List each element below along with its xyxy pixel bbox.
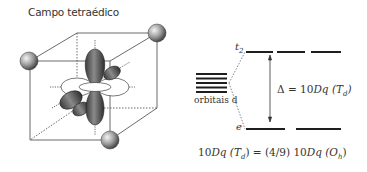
ligand-sphere [101,131,119,149]
ligand-sphere [20,52,38,70]
connector-lines [229,52,245,129]
t2-label: t2 [235,41,244,55]
ligand-sphere [148,24,166,42]
splitting-arrow [269,55,272,122]
orbitais-d-label: orbitais d [194,95,237,105]
d-orbital-lobes [57,49,129,125]
e-label: e [236,121,242,132]
formula: 10Dq (Td) = (4/9) 10Dq (Oh) [198,146,347,161]
splitting-label: Δ = 10Dq (Td) [277,83,352,98]
degenerate-d-levels [196,74,227,92]
